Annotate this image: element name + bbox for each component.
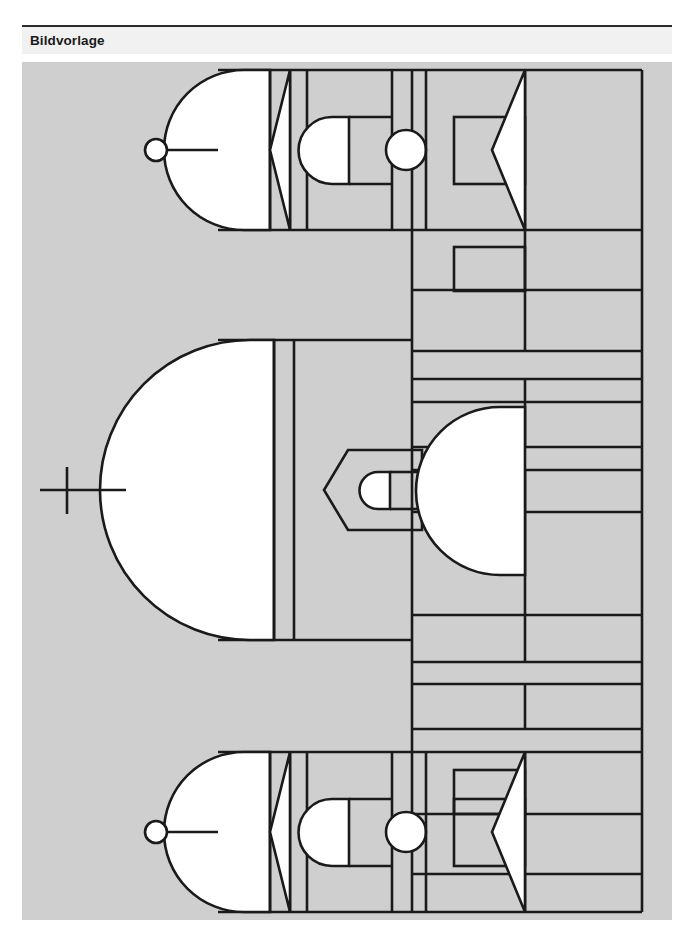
arrow-chevron-white xyxy=(492,752,525,912)
triangle-notch-white xyxy=(270,70,290,230)
bottom-figure xyxy=(145,752,525,912)
large-dome-white xyxy=(100,340,274,640)
top-figure xyxy=(145,70,525,230)
middle-figure xyxy=(40,340,525,640)
page-title: Bildvorlage xyxy=(30,31,105,50)
small-circle-connector xyxy=(145,139,167,161)
header-band xyxy=(22,27,672,54)
small-circle-connector xyxy=(145,821,167,843)
small-circle-white xyxy=(386,812,426,852)
drawing-canvas xyxy=(22,62,672,920)
band-inner-rectangle-top xyxy=(454,247,525,291)
right-dome-white xyxy=(416,407,525,575)
geometric-figure xyxy=(22,62,672,920)
small-rounded-tab-white xyxy=(360,472,390,509)
triangle-notch-white xyxy=(270,752,290,912)
small-circle-white xyxy=(386,130,426,170)
document-page: Bildvorlage xyxy=(0,0,695,943)
arrow-chevron-white xyxy=(492,70,525,230)
